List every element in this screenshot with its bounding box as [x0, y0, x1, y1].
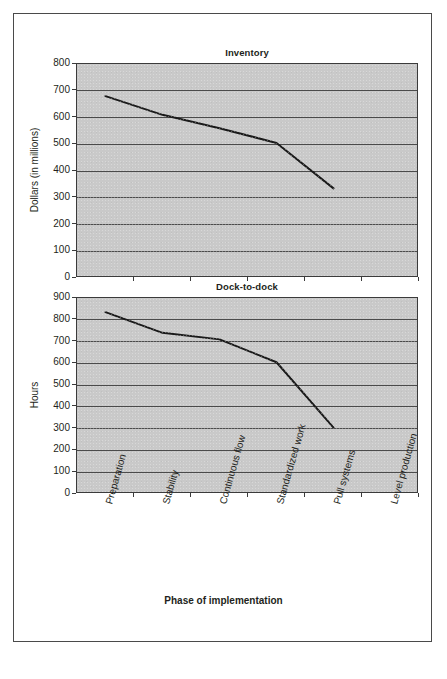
y-tick-mark	[72, 384, 76, 385]
x-tick-mark	[361, 493, 362, 497]
chart-title-inventory: Inventory	[76, 47, 418, 58]
y-tick-label: 800	[36, 58, 70, 68]
x-axis-title: Phase of implementation	[14, 595, 433, 606]
plot-area-inventory	[76, 63, 418, 277]
y-tick-mark	[72, 471, 76, 472]
y-tick-label: 800	[36, 314, 70, 324]
y-tick-label: 400	[36, 165, 70, 175]
y-tick-label: 100	[36, 245, 70, 255]
y-tick-label: 300	[36, 192, 70, 202]
series-line	[77, 64, 418, 277]
y-tick-label: 0	[36, 488, 70, 498]
y-tick-mark	[72, 318, 76, 319]
y-tick-mark	[72, 223, 76, 224]
y-tick-mark	[72, 362, 76, 363]
y-tick-label: 200	[36, 219, 70, 229]
figure-frame: Inventory Dollars (in millions) 01002003…	[13, 13, 432, 642]
x-tick-mark	[304, 493, 305, 497]
y-tick-mark	[72, 427, 76, 428]
plot-area-dock-to-dock	[76, 297, 418, 493]
chart-title-dock-to-dock: Dock-to-dock	[76, 281, 418, 292]
y-tick-mark	[72, 170, 76, 171]
y-tick-mark	[72, 405, 76, 406]
y-tick-label: 400	[36, 401, 70, 411]
y-tick-label: 100	[36, 466, 70, 476]
series-line	[77, 298, 418, 493]
y-tick-label: 900	[36, 292, 70, 302]
y-tick-mark	[72, 277, 76, 278]
y-tick-label: 600	[36, 112, 70, 122]
x-tick-mark	[418, 493, 419, 497]
y-tick-mark	[72, 143, 76, 144]
y-tick-mark	[72, 196, 76, 197]
y-tick-label: 500	[36, 379, 70, 389]
y-axis-title-dock-to-dock: Hours	[28, 297, 42, 493]
y-tick-label: 300	[36, 423, 70, 433]
y-tick-label: 0	[36, 272, 70, 282]
x-tick-mark	[133, 493, 134, 497]
y-tick-mark	[72, 449, 76, 450]
y-tick-label: 700	[36, 336, 70, 346]
y-tick-mark	[72, 297, 76, 298]
x-tick-mark	[190, 493, 191, 497]
x-tick-mark	[247, 493, 248, 497]
y-tick-mark	[72, 116, 76, 117]
y-tick-label: 700	[36, 85, 70, 95]
y-tick-mark	[72, 250, 76, 251]
y-tick-label: 200	[36, 444, 70, 454]
y-tick-label: 500	[36, 138, 70, 148]
y-tick-mark	[72, 63, 76, 64]
y-tick-mark	[72, 340, 76, 341]
y-tick-label: 600	[36, 357, 70, 367]
y-tick-mark	[72, 493, 76, 494]
y-tick-mark	[72, 89, 76, 90]
